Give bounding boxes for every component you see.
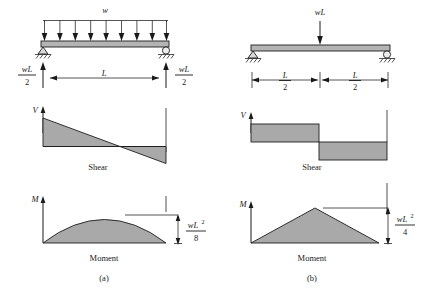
panel-a: w [18,5,206,283]
span-label-a: L [101,68,107,78]
reaction-left-den-a: 2 [25,77,29,87]
reaction-left-a [40,62,46,88]
dimension-left-b: L 2 [252,70,318,92]
dim-right-num-b: L [352,70,358,80]
moment-peak-dimension-b [384,207,392,245]
moment-peak-num-b: wL [397,214,408,224]
load-arrow [42,21,48,42]
shear-area-negative-b [319,142,387,160]
beam-a [41,41,169,47]
moment-axis-label-b: M [238,199,247,209]
load-label-b: wL [315,7,326,17]
panel-b: wL [238,7,415,283]
dim-left-num-b: L [282,70,288,80]
shear-area-positive-a [43,118,120,147]
load-arrow [164,21,170,42]
shear-caption-b: Shear [302,162,322,172]
shear-diagram-b: V Shear [240,110,387,172]
moment-peak-den-b: 4 [403,227,408,237]
shear-area-negative-a [120,147,166,164]
point-load-arrow-b [317,21,323,45]
shear-caption-a: Shear [88,162,108,172]
load-arrow [57,21,63,42]
moment-peak-num-a: wL [188,220,199,230]
dimension-right-b: L 2 [322,70,388,92]
support-pin-b [245,51,261,63]
reaction-left-label-a: wL 2 [18,64,36,87]
support-pin-a [35,47,51,59]
dim-right-den-b: 2 [353,82,357,92]
load-arrow [88,21,94,42]
reaction-left-num-a: wL [22,64,33,74]
moment-peak-label-a: wL 2 8 [186,219,206,243]
load-arrow [134,21,140,42]
moment-peak-exp-b: 2 [411,213,414,219]
reaction-right-num-a: wL [179,64,190,74]
support-roller-b [379,51,395,63]
load-arrow [73,21,79,42]
moment-area-a [43,220,166,244]
panel-caption-b: (b) [307,273,317,283]
panel-caption-a: (a) [99,273,109,283]
shear-axis-label-a: V [32,105,39,115]
moment-caption-b: Moment [298,253,327,263]
span-dimension-a: L [50,68,159,80]
shear-area-positive-b [251,124,319,142]
moment-diagram-a: M wL 2 8 Moment [30,194,206,263]
support-roller-a [158,47,174,59]
figure-canvas: w [0,0,422,288]
load-arrow [150,21,156,42]
moment-peak-label-b: wL 2 4 [395,213,415,237]
reaction-right-a [163,62,169,88]
reaction-right-label-a: wL 2 [175,64,193,87]
moment-diagram-b: M wL 2 4 Moment [238,183,415,263]
beam-b [251,45,390,51]
beam-diagram-figure: w [0,0,422,288]
load-label-a: w [102,5,108,15]
reaction-right-den-a: 2 [182,77,186,87]
load-arrow [119,21,125,42]
load-arrows-a [42,21,170,42]
dim-left-den-b: 2 [283,82,287,92]
moment-peak-den-a: 8 [194,233,198,243]
shear-axis-label-b: V [240,110,247,120]
moment-caption-a: Moment [90,253,119,263]
moment-area-b [251,208,379,243]
moment-peak-exp-a: 2 [202,219,205,225]
moment-peak-dimension-a [174,214,182,245]
load-arrow [103,21,109,42]
moment-axis-label-a: M [30,194,39,204]
shear-diagram-a: V Shear [32,105,166,172]
